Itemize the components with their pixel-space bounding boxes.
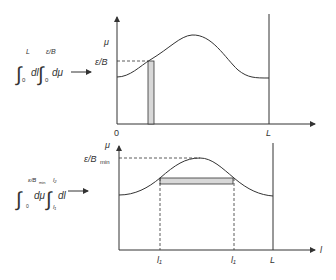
level-label: ε/B	[95, 57, 107, 67]
bottom-panel: ∫ ε/B min 0 dμ ∫ l₂ l₁ dl μ ε/B min l₁ l…	[15, 140, 323, 265]
int2-var: dμ	[52, 67, 64, 78]
int1-upper: L	[26, 48, 30, 55]
integral-sign: ∫	[37, 63, 45, 86]
int2-upper: ε/B	[46, 48, 56, 55]
shaded-strip	[160, 178, 233, 184]
x-axis-label: l	[320, 245, 323, 255]
int2-lower: l₁	[53, 204, 56, 210]
x-end-label: L	[270, 255, 275, 265]
diagram-canvas: ∫ L 0 dl ∫ ε/B 0 dμ μ ε/B 0 L ∫ ε/B	[0, 0, 336, 280]
int1-upper-sub: min	[39, 180, 45, 185]
y-axis-label: μ	[104, 140, 110, 150]
origin-label: 0	[114, 128, 119, 138]
int1-var: dμ	[34, 190, 46, 201]
x-label-l1-left: l₁	[157, 255, 162, 265]
integral-sign: ∫	[15, 188, 23, 211]
int1-upper: ε/B	[28, 177, 36, 183]
integral-sign: ∫	[45, 188, 53, 211]
bottom-formula: ∫ ε/B min 0 dμ ∫ l₂ l₁ dl	[15, 177, 88, 211]
top-panel: ∫ L 0 dl ∫ ε/B 0 dμ μ ε/B 0 L	[15, 14, 315, 138]
int2-lower: 0	[45, 77, 49, 83]
y-axis-label: μ	[103, 37, 109, 47]
int2-upper: l₂	[53, 177, 57, 183]
x-label-l1-right: l₁	[231, 255, 236, 265]
int1-lower: 0	[22, 77, 26, 83]
int2-var: dl	[58, 190, 67, 201]
x-end-label: L	[266, 128, 271, 138]
top-formula: ∫ L 0 dl ∫ ε/B 0 dμ	[15, 48, 91, 86]
level-label: ε/B	[84, 154, 96, 164]
int1-lower: 0	[26, 203, 29, 209]
mu-curve	[119, 158, 273, 196]
shaded-strip	[148, 61, 154, 124]
level-label-sub: min	[100, 159, 110, 165]
mu-curve	[117, 35, 269, 78]
